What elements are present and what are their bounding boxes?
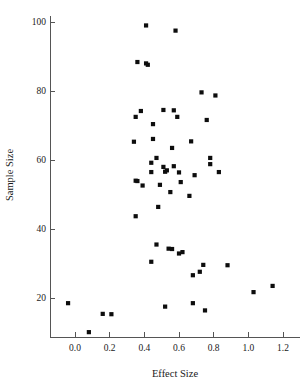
data-point	[170, 247, 174, 251]
data-point	[134, 115, 138, 119]
data-point	[187, 194, 191, 198]
ticks-group	[50, 22, 283, 337]
data-point	[135, 179, 139, 183]
data-point	[139, 109, 143, 113]
data-point	[151, 122, 155, 126]
data-point	[213, 93, 217, 97]
data-point	[151, 137, 155, 141]
data-point	[208, 162, 212, 166]
data-point	[198, 270, 202, 274]
y-axis-tick-label: 40	[37, 224, 47, 234]
scatter-plot-canvas: 204060801000.00.20.40.60.81.01.2 Effect …	[0, 0, 306, 383]
data-point	[205, 118, 209, 122]
data-point	[191, 273, 195, 277]
data-point	[175, 115, 179, 119]
data-point	[132, 140, 136, 144]
y-axis-tick-label: 20	[37, 293, 47, 303]
x-axis-tick-label: 1.2	[277, 343, 289, 353]
data-point	[251, 290, 255, 294]
data-point	[199, 90, 203, 94]
data-point	[101, 312, 105, 316]
data-point	[163, 170, 167, 174]
data-point	[271, 284, 275, 288]
data-point	[193, 173, 197, 177]
y-axis-tick-label: 80	[37, 86, 47, 96]
data-point	[217, 170, 221, 174]
data-point	[170, 146, 174, 150]
data-point	[172, 108, 176, 112]
y-axis-tick-label: 60	[37, 155, 47, 165]
x-axis-tick-label: 0.0	[69, 343, 81, 353]
x-axis-tick-label: 0.6	[173, 343, 185, 353]
data-point	[191, 301, 195, 305]
data-point	[173, 29, 177, 33]
y-axis-tick-label: 100	[32, 17, 47, 27]
data-point	[203, 308, 207, 312]
data-point	[180, 250, 184, 254]
x-axis-tick-label: 0.2	[104, 343, 116, 353]
data-points-group	[66, 23, 275, 334]
data-point	[179, 180, 183, 184]
x-axis-tick-label: 0.4	[138, 343, 150, 353]
data-point	[134, 214, 138, 218]
x-axis-title: Effect Size	[152, 368, 198, 379]
scatter-plot-figure: 204060801000.00.20.40.60.81.01.2 Effect …	[0, 0, 306, 383]
data-point	[149, 161, 153, 165]
data-point	[161, 108, 165, 112]
data-point	[141, 183, 145, 187]
data-point	[149, 260, 153, 264]
data-point	[208, 156, 212, 160]
y-axis-title: Sample Size	[4, 149, 15, 202]
data-point	[154, 242, 158, 246]
data-point	[87, 330, 91, 334]
data-point	[177, 170, 181, 174]
axes-group	[50, 16, 300, 337]
data-point	[154, 156, 158, 160]
x-axis-tick-label: 0.8	[208, 343, 220, 353]
data-point	[172, 164, 176, 168]
data-point	[225, 263, 229, 267]
data-point	[163, 305, 167, 309]
data-point	[156, 205, 160, 209]
data-point	[158, 183, 162, 187]
data-point	[66, 301, 70, 305]
data-point	[135, 60, 139, 64]
data-point	[109, 312, 113, 316]
data-point	[201, 263, 205, 267]
data-point	[146, 63, 150, 67]
data-point	[149, 170, 153, 174]
data-point	[168, 190, 172, 194]
data-point	[144, 23, 148, 27]
data-point	[189, 139, 193, 143]
x-axis-tick-label: 1.0	[242, 343, 254, 353]
